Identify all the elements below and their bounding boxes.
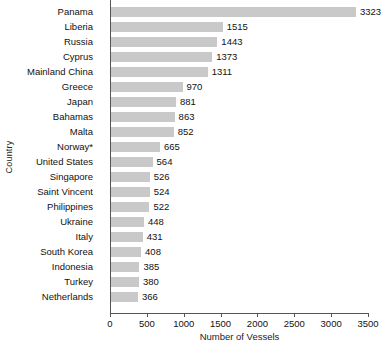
bar-row: Japan881: [110, 94, 368, 109]
bar: [111, 292, 138, 302]
bar: [111, 187, 150, 197]
bar-value-label: 448: [144, 214, 164, 229]
bar-row: Philippines522: [110, 199, 368, 214]
category-label: Liberia: [0, 19, 93, 34]
x-axis-line: [110, 313, 369, 314]
category-label: Japan: [0, 94, 93, 109]
bar-value-label: 408: [141, 244, 161, 259]
bar-value-label: 1311: [208, 64, 232, 79]
x-axis-tick-label: 3500: [357, 318, 378, 329]
bar-row: Turkey380: [110, 274, 368, 289]
bar-value-label: 385: [139, 259, 159, 274]
bar-value-label: 522: [149, 199, 169, 214]
bar-row: Netherlands366: [110, 289, 368, 304]
bar: [111, 277, 139, 287]
bar: [111, 232, 143, 242]
bar-value-label: 431: [143, 229, 163, 244]
category-label: Saint Vincent: [0, 184, 93, 199]
category-label: Philippines: [0, 199, 93, 214]
bar-value-label: 863: [175, 109, 195, 124]
bar-row: Liberia1515: [110, 19, 368, 34]
bar-value-label: 564: [153, 154, 173, 169]
bar-value-label: 665: [160, 139, 180, 154]
bar: [111, 217, 144, 227]
bar-row: Italy431: [110, 229, 368, 244]
category-label: South Korea: [0, 244, 93, 259]
x-axis-tick: [368, 313, 369, 317]
plot-area: Panama3323Liberia1515Russia1443Cyprus137…: [110, 0, 368, 313]
bar: [111, 97, 176, 107]
x-axis-tick: [257, 313, 258, 317]
x-axis-tick-label: 0: [107, 318, 112, 329]
bar-value-label: 1373: [212, 49, 237, 64]
bar: [111, 7, 356, 17]
bar-row: Mainland China1311: [110, 64, 368, 79]
bar: [111, 127, 174, 137]
category-label: Bahamas: [0, 109, 93, 124]
category-label: Norway*: [0, 139, 93, 154]
category-label: Ukraine: [0, 214, 93, 229]
x-axis-tick: [110, 313, 111, 317]
bar: [111, 52, 212, 62]
category-label: Netherlands: [0, 289, 93, 304]
bar-row: Saint Vincent524: [110, 184, 368, 199]
bar-row: Malta852: [110, 124, 368, 139]
category-label: Turkey: [0, 274, 93, 289]
bar-row: Ukraine448: [110, 214, 368, 229]
x-axis-tick: [294, 313, 295, 317]
bar: [111, 142, 160, 152]
bar-value-label: 1515: [223, 19, 248, 34]
category-label: Italy: [0, 229, 93, 244]
category-label: Greece: [0, 79, 93, 94]
category-label: Panama: [0, 4, 93, 19]
bar-row: United States564: [110, 154, 368, 169]
bar-value-label: 1443: [217, 34, 242, 49]
bar-value-label: 881: [176, 94, 196, 109]
category-label: Russia: [0, 34, 93, 49]
bar-row: Cyprus1373: [110, 49, 368, 64]
bar-value-label: 380: [139, 274, 159, 289]
bar-value-label: 526: [150, 169, 170, 184]
x-axis-tick-label: 500: [139, 318, 155, 329]
bar-value-label: 852: [174, 124, 194, 139]
bar-row: South Korea408: [110, 244, 368, 259]
category-label: Malta: [0, 124, 93, 139]
category-label: Cyprus: [0, 49, 93, 64]
category-label: Singapore: [0, 169, 93, 184]
x-axis-title: Number of Vessels: [110, 331, 369, 342]
bar-row: Indonesia385: [110, 259, 368, 274]
bar-row: Panama3323: [110, 4, 368, 19]
bar: [111, 67, 208, 77]
x-axis-tick: [331, 313, 332, 317]
bar: [111, 172, 150, 182]
x-axis-tick-label: 1000: [173, 318, 194, 329]
x-axis-tick-label: 2000: [247, 318, 268, 329]
bar-row: Norway*665: [110, 139, 368, 154]
x-axis-tick-label: 3000: [321, 318, 342, 329]
bar: [111, 112, 175, 122]
x-axis-tick: [221, 313, 222, 317]
bar-row: Greece970: [110, 79, 368, 94]
bar: [111, 262, 139, 272]
category-label: Mainland China: [0, 64, 93, 79]
bar: [111, 37, 217, 47]
x-axis-tick-label: 2500: [284, 318, 305, 329]
bar-row: Singapore526: [110, 169, 368, 184]
bar: [111, 22, 223, 32]
bar-value-label: 3323: [356, 4, 381, 19]
bar: [111, 202, 149, 212]
category-label: United States: [0, 154, 93, 169]
bar-chart: Country Panama3323Liberia1515Russia1443C…: [0, 0, 383, 347]
bar-value-label: 366: [138, 289, 158, 304]
bar-value-label: 970: [183, 79, 203, 94]
bar: [111, 157, 153, 167]
bar-value-label: 524: [150, 184, 170, 199]
x-axis-tick: [184, 313, 185, 317]
bar-row: Bahamas863: [110, 109, 368, 124]
bar-row: Russia1443: [110, 34, 368, 49]
category-label: Indonesia: [0, 259, 93, 274]
bar: [111, 82, 183, 92]
x-axis-tick: [147, 313, 148, 317]
bar: [111, 247, 141, 257]
x-axis-tick-label: 1500: [210, 318, 231, 329]
